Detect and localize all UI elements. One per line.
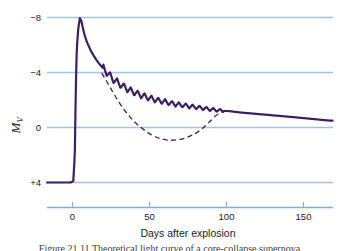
y-axis-tick-labels: −8 −4 0 +4 xyxy=(30,12,41,188)
x-tick-label-3: 150 xyxy=(296,211,312,222)
y-tick-label-2: 0 xyxy=(36,122,41,133)
y-tick-label-3: +4 xyxy=(30,177,41,188)
x-axis-tick-labels: 0 50 100 150 xyxy=(70,211,312,222)
x-axis-title: Days after explosion xyxy=(140,227,235,239)
light-curve-plot: −8 −4 0 +4 M V 0 50 100 150 Days after e… xyxy=(0,0,339,251)
x-tick-label-2: 100 xyxy=(219,211,235,222)
smooth-model-curve xyxy=(102,73,227,140)
x-tick-label-0: 0 xyxy=(70,211,75,222)
gridlines xyxy=(47,18,333,183)
y-tick-label-0: −8 xyxy=(30,12,41,23)
observed-light-curve xyxy=(47,18,333,182)
x-tick-label-1: 50 xyxy=(144,211,155,222)
supernova-light-curve-figure: −8 −4 0 +4 M V 0 50 100 150 Days after e… xyxy=(0,0,339,251)
y-axis-title-subscript: V xyxy=(15,116,25,123)
x-axis xyxy=(47,202,333,208)
figure-caption: Figure 21.11 Theoretical light curve of … xyxy=(0,243,339,251)
y-axis-title: M V xyxy=(8,116,25,135)
y-tick-label-1: −4 xyxy=(30,67,41,78)
